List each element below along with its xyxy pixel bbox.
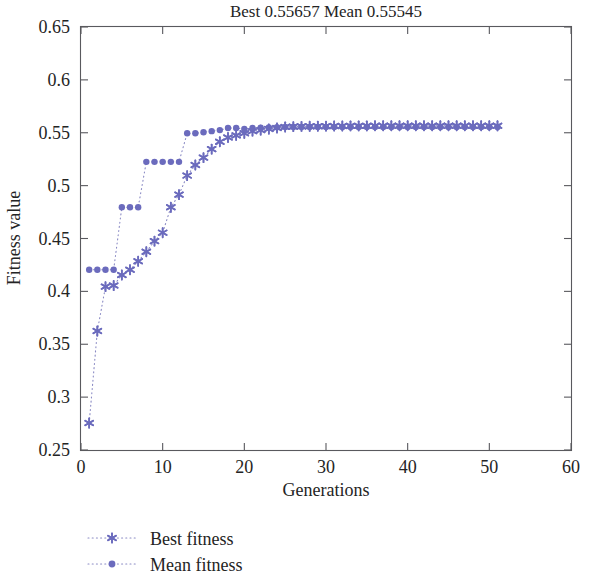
data-point-marker (413, 124, 419, 130)
data-point-marker (315, 124, 321, 130)
chart-title: Best 0.55657 Mean 0.55545 (230, 2, 422, 21)
data-point-marker (478, 124, 484, 130)
legend-item-mean-fitness[interactable]: Mean fitness (88, 555, 242, 575)
data-point-marker (86, 267, 92, 273)
chart-legend: Best fitnessMean fitness (88, 529, 242, 575)
x-tick-label: 50 (480, 457, 498, 477)
y-tick-label: 0.55 (39, 123, 71, 143)
data-point-marker (274, 124, 280, 130)
data-point-marker (151, 159, 157, 165)
data-point-marker (323, 124, 329, 130)
data-point-marker (445, 124, 451, 130)
x-tick-label: 30 (317, 457, 335, 477)
legend-label: Best fitness (150, 529, 234, 549)
data-point-marker (192, 130, 198, 136)
data-point-marker (118, 270, 126, 279)
data-point-marker (372, 124, 378, 130)
data-point-marker (257, 124, 263, 130)
legend-marker-dot (109, 561, 116, 568)
data-point-marker (94, 267, 100, 273)
data-point-marker (127, 204, 133, 210)
data-point-marker (396, 124, 402, 130)
data-point-marker (93, 326, 101, 335)
data-point-marker (232, 131, 240, 140)
data-point-marker (184, 130, 190, 136)
data-point-marker (119, 204, 125, 210)
y-tick-label: 0.3 (48, 387, 71, 407)
data-point-marker (429, 124, 435, 130)
data-point-marker (249, 125, 255, 131)
data-point-marker (208, 128, 214, 134)
data-point-marker (102, 282, 110, 291)
x-axis-ticks: 0102030405060 (77, 27, 581, 477)
data-point-marker (183, 171, 191, 180)
data-point-marker (380, 124, 386, 130)
data-point-marker (347, 124, 353, 130)
data-point-marker (486, 124, 492, 130)
data-point-marker (176, 159, 182, 165)
data-point-marker (102, 267, 108, 273)
data-point-marker (266, 124, 272, 130)
y-tick-label: 0.5 (48, 176, 71, 196)
data-point-marker (224, 133, 232, 142)
y-axis-title: Fitness value (4, 191, 24, 286)
data-point-marker (241, 126, 247, 132)
data-point-marker (135, 204, 141, 210)
data-point-marker (159, 159, 165, 165)
data-point-marker (217, 127, 223, 133)
data-point-marker (208, 145, 216, 154)
data-series-layer (85, 121, 501, 427)
series-line (89, 126, 497, 423)
data-point-marker (110, 267, 116, 273)
data-point-marker (225, 125, 231, 131)
data-point-marker (200, 153, 208, 162)
data-point-marker (388, 124, 394, 130)
figure-container: Best 0.55657 Mean 0.55545 0.250.30.350.4… (0, 0, 607, 576)
data-point-marker (462, 124, 468, 130)
x-tick-label: 60 (562, 457, 580, 477)
data-point-marker (421, 124, 427, 130)
x-tick-label: 40 (399, 457, 417, 477)
data-point-marker (85, 418, 93, 427)
data-point-marker (404, 124, 410, 130)
data-point-marker (364, 124, 370, 130)
y-axis-ticks: 0.250.30.350.40.450.50.550.60.65 (39, 17, 572, 460)
data-point-marker (282, 124, 288, 130)
y-tick-label: 0.65 (39, 17, 71, 37)
data-point-marker (453, 124, 459, 130)
data-point-marker (233, 125, 239, 131)
data-point-marker (437, 124, 443, 130)
fitness-chart: Best 0.55657 Mean 0.55545 0.250.30.350.4… (0, 0, 607, 576)
x-axis-title: Generations (283, 480, 370, 500)
data-point-marker (290, 124, 296, 130)
data-point-marker (175, 190, 183, 199)
data-point-marker (143, 159, 149, 165)
x-tick-label: 20 (235, 457, 253, 477)
y-tick-label: 0.25 (39, 440, 71, 460)
data-point-marker (168, 159, 174, 165)
legend-label: Mean fitness (150, 555, 242, 575)
data-point-marker (200, 129, 206, 135)
y-tick-label: 0.35 (39, 334, 71, 354)
y-tick-label: 0.4 (48, 281, 71, 301)
data-point-marker (470, 124, 476, 130)
data-point-marker (339, 124, 345, 130)
data-point-marker (298, 124, 304, 130)
y-tick-label: 0.6 (48, 70, 71, 90)
legend-item-best-fitness[interactable]: Best fitness (88, 529, 234, 549)
data-point-marker (331, 124, 337, 130)
series-line (89, 127, 497, 270)
data-point-marker (355, 124, 361, 130)
data-point-marker (494, 124, 500, 130)
series-best-fitness (85, 121, 501, 427)
y-tick-label: 0.45 (39, 229, 71, 249)
data-point-marker (167, 203, 175, 212)
x-tick-label: 10 (154, 457, 172, 477)
x-tick-label: 0 (77, 457, 86, 477)
data-point-marker (306, 124, 312, 130)
